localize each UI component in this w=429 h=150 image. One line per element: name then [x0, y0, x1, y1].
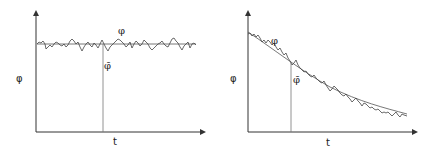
figure: φ φ̄ φ t φ φ̄ φ t: [0, 0, 429, 150]
left-x-label: t: [113, 136, 117, 147]
left-plot: φ φ̄ φ t: [16, 13, 203, 147]
left-y-label: φ: [16, 73, 23, 84]
left-phibar-label: φ̄: [104, 60, 111, 71]
right-plot: φ φ̄ φ t: [230, 13, 415, 148]
right-phi-label: φ: [271, 35, 278, 46]
right-x-label: t: [326, 137, 330, 148]
right-y-label: φ: [230, 73, 237, 84]
right-phibar-label: φ̄: [293, 74, 300, 85]
left-phi-label: φ: [118, 25, 125, 36]
left-noisy-signal: [37, 38, 196, 51]
